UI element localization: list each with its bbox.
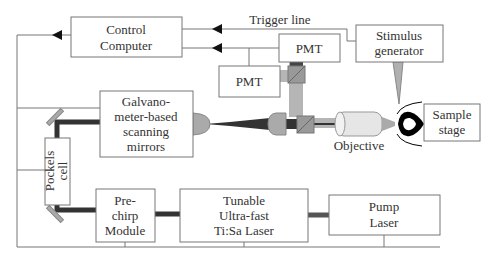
svg-text:stage: stage [439,122,466,137]
svg-text:Galvano-: Galvano- [122,94,170,109]
arrow-left-icon [52,30,62,40]
svg-text:Module: Module [105,223,146,238]
arrow-left-icon [212,43,222,53]
scan-lens-icon [193,113,210,135]
sample-stage-box: Sample stage [424,104,480,141]
svg-text:Laser: Laser [370,215,400,230]
stimulus-electrode-icon [393,62,403,104]
microscope-diagram: Control Computer Trigger line PMT PMT St… [0,0,492,267]
svg-text:generator: generator [374,43,424,58]
pockels-cell-box: Pockels cell [42,138,70,205]
svg-text:Tunable: Tunable [223,193,265,208]
svg-text:Ultra-fast: Ultra-fast [219,208,269,223]
svg-text:scanning: scanning [123,124,170,139]
svg-text:Stimulus: Stimulus [376,28,422,43]
svg-text:Sample: Sample [433,107,472,122]
svg-text:Pump: Pump [369,199,399,214]
svg-text:PMT: PMT [296,41,323,56]
objective-label: Objective [334,138,385,153]
pmt-left-box: PMT [219,66,280,97]
control-computer-box: Control Computer [71,17,182,57]
trigger-line-label: Trigger line [249,12,310,27]
svg-text:chirp: chirp [112,208,139,223]
stimulus-generator-box: Stimulus generator [356,25,443,62]
svg-text:Control: Control [106,22,146,37]
pmt-top-box: PMT [279,34,340,62]
galvo-mirrors-box: Galvano- meter-based scanning mirrors [100,91,193,157]
svg-text:meter-based: meter-based [114,109,178,124]
pump-laser-box: Pump Laser [329,195,440,235]
svg-text:PMT: PMT [236,74,263,89]
svg-text:cell: cell [55,161,70,180]
svg-text:Pre-: Pre- [114,193,136,208]
arrow-left-icon [212,24,222,34]
svg-text:mirrors: mirrors [127,139,165,154]
svg-text:Ti:Sa Laser: Ti:Sa Laser [214,223,274,238]
objective-icon [335,112,395,136]
prechirp-module-box: Pre- chirp Module [96,189,155,242]
tunable-laser-box: Tunable Ultra-fast Ti:Sa Laser [180,189,308,242]
svg-text:Computer: Computer [100,38,153,53]
sample-icon [397,102,424,146]
tube-lens-icon [268,113,286,135]
